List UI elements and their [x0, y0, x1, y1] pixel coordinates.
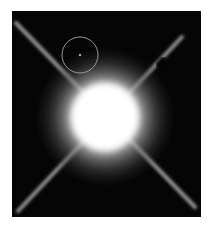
star-core	[71, 83, 139, 151]
circle-marker-dot	[79, 54, 81, 56]
starburst-graphic	[12, 11, 201, 217]
star-image	[12, 11, 201, 217]
